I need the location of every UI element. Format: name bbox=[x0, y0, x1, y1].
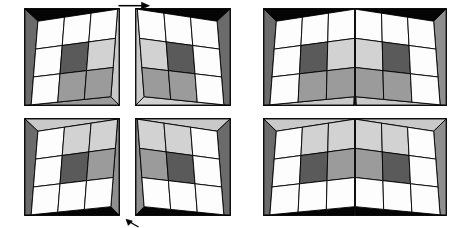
checker-cell bbox=[382, 152, 410, 184]
checker-cell bbox=[328, 9, 355, 42]
bottom-joined-card-valley-fold-graphic bbox=[263, 118, 447, 216]
checker-cell bbox=[355, 119, 382, 152]
bottom-left-half-card bbox=[24, 118, 120, 216]
checker-cell bbox=[355, 68, 383, 100]
top-joined-card-tent-fold bbox=[263, 8, 447, 106]
checker-cell bbox=[166, 42, 195, 74]
arrow-right-icon bbox=[118, 1, 150, 10]
checker-grid-right bbox=[355, 9, 440, 105]
panel-content bbox=[264, 119, 446, 215]
top-left-half-card-graphic bbox=[24, 8, 120, 106]
checker-cell bbox=[410, 184, 440, 215]
checker-cell bbox=[355, 9, 382, 42]
checker-cell bbox=[409, 156, 438, 187]
checker-cell bbox=[191, 17, 220, 49]
bottom-middle-half-card bbox=[135, 118, 231, 216]
checker-cell bbox=[36, 127, 65, 159]
checker-cell bbox=[166, 152, 195, 184]
checker-cell bbox=[31, 184, 60, 215]
checker-cell bbox=[382, 123, 409, 155]
checker-cell bbox=[301, 13, 328, 45]
checker-cell bbox=[382, 42, 410, 74]
checker-cell bbox=[84, 178, 113, 210]
checker-cell bbox=[193, 46, 222, 77]
checker-cell bbox=[31, 74, 60, 105]
panel-content bbox=[25, 9, 119, 105]
checker-cell bbox=[195, 74, 224, 105]
checker-cell bbox=[327, 38, 355, 70]
bottom-middle-half-card-graphic bbox=[135, 118, 231, 216]
checker-grid-left bbox=[270, 9, 355, 105]
checker-cell bbox=[58, 71, 87, 102]
figure-canvas bbox=[0, 0, 457, 228]
arrow-head bbox=[142, 2, 150, 9]
checker-grid bbox=[31, 9, 117, 105]
checker-cell bbox=[168, 181, 197, 212]
checker-cell bbox=[274, 17, 302, 49]
checker-cell bbox=[58, 181, 87, 212]
checker-cell bbox=[62, 13, 91, 45]
checker-cell bbox=[84, 68, 113, 100]
checker-cell bbox=[300, 42, 328, 74]
checker-cell bbox=[270, 184, 300, 215]
panel-content bbox=[25, 119, 119, 215]
checker-cell bbox=[298, 181, 327, 212]
checker-cell bbox=[191, 127, 220, 159]
top-middle-half-card bbox=[135, 8, 231, 106]
checker-cell bbox=[272, 46, 301, 77]
checker-cell bbox=[137, 119, 166, 152]
top-left-half-card bbox=[24, 8, 120, 106]
panel-content bbox=[264, 9, 446, 105]
checker-cell bbox=[89, 9, 118, 42]
checker-cell bbox=[62, 123, 91, 155]
arrow-up-left-icon bbox=[124, 218, 140, 228]
checker-cell bbox=[164, 13, 193, 45]
checker-cell bbox=[408, 17, 436, 49]
checker-grid-right bbox=[355, 119, 440, 215]
top-middle-half-card-graphic bbox=[135, 8, 231, 106]
checker-cell bbox=[328, 119, 355, 152]
checker-cell bbox=[326, 178, 354, 210]
checker-cell bbox=[327, 148, 355, 180]
checker-cell bbox=[409, 46, 438, 77]
bottom-joined-card-valley-fold bbox=[263, 118, 447, 216]
panel-content bbox=[136, 9, 230, 105]
checker-cell bbox=[355, 148, 383, 180]
checker-cell bbox=[142, 178, 171, 210]
checker-cell bbox=[193, 156, 222, 187]
checker-grid bbox=[137, 9, 223, 105]
checker-grid-left bbox=[270, 119, 355, 215]
checker-cell bbox=[272, 156, 301, 187]
checker-cell bbox=[355, 178, 383, 210]
checker-grid bbox=[31, 119, 117, 215]
checker-cell bbox=[33, 156, 62, 187]
checker-cell bbox=[274, 127, 302, 159]
checker-cell bbox=[270, 74, 300, 105]
checker-grid bbox=[137, 119, 223, 215]
checker-cell bbox=[168, 71, 197, 102]
panel-content bbox=[136, 119, 230, 215]
checker-cell bbox=[87, 38, 116, 70]
checker-cell bbox=[140, 38, 169, 70]
checker-cell bbox=[140, 148, 169, 180]
arrow-head bbox=[126, 219, 132, 225]
checker-cell bbox=[164, 123, 193, 155]
checker-cell bbox=[355, 38, 383, 70]
checker-cell bbox=[33, 46, 62, 77]
checker-cell bbox=[408, 127, 436, 159]
checker-cell bbox=[60, 152, 89, 184]
checker-cell bbox=[36, 17, 65, 49]
bottom-left-half-card-graphic bbox=[24, 118, 120, 216]
checker-cell bbox=[60, 42, 89, 74]
checker-cell bbox=[87, 148, 116, 180]
checker-cell bbox=[382, 13, 409, 45]
bottom-fold-direction-arrow bbox=[124, 218, 140, 228]
checker-cell bbox=[298, 71, 327, 102]
checker-cell bbox=[383, 71, 412, 102]
checker-cell bbox=[383, 181, 412, 212]
checker-cell bbox=[195, 184, 224, 215]
top-joined-card-tent-fold-graphic bbox=[263, 8, 447, 106]
top-fold-direction-arrow bbox=[118, 1, 150, 10]
checker-cell bbox=[142, 68, 171, 100]
checker-cell bbox=[326, 68, 354, 100]
